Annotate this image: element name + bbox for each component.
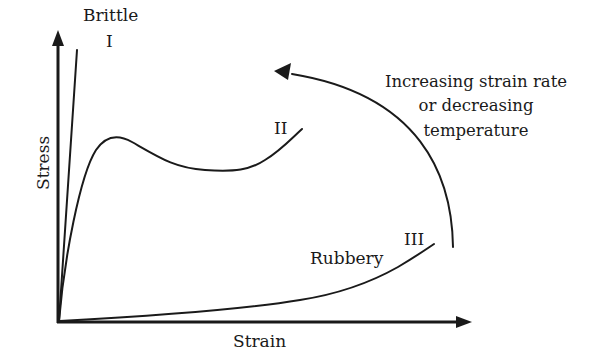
annotation-line-1: Increasing strain rate xyxy=(385,72,567,91)
label-curve-I: I xyxy=(106,31,113,51)
curve-brittle-I xyxy=(59,50,77,321)
y-axis-arrowhead-icon xyxy=(52,30,64,46)
label-curve-II: II xyxy=(274,118,287,138)
trend-arrowhead-icon xyxy=(274,63,291,80)
x-axis-label: Strain xyxy=(233,331,286,351)
stress-strain-diagram: Brittle I II III Rubbery Stress Strain I… xyxy=(0,0,592,359)
y-axis-label: Stress xyxy=(33,136,53,190)
label-curve-III: III xyxy=(404,229,424,249)
x-axis-arrowhead-icon xyxy=(456,316,472,328)
label-rubbery: Rubbery xyxy=(310,248,384,268)
annotation-text: Increasing strain rate or decreasing tem… xyxy=(385,72,567,140)
curve-II xyxy=(59,129,302,321)
annotation-line-2: or decreasing xyxy=(418,96,533,115)
annotation-line-3: temperature xyxy=(423,121,528,140)
label-brittle: Brittle xyxy=(83,5,138,25)
